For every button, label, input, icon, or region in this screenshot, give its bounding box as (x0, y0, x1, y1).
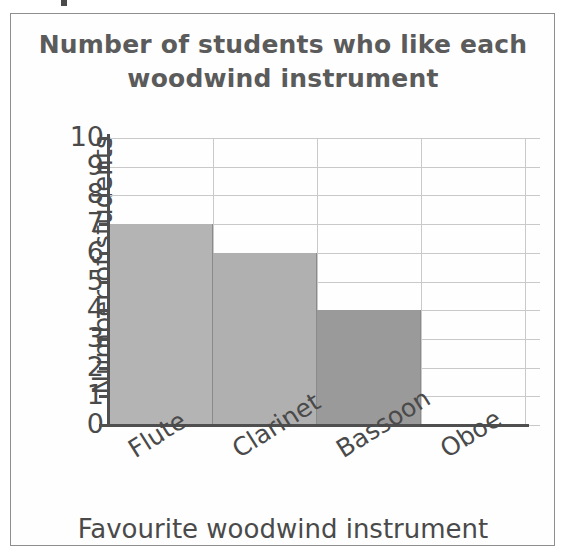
y-tick-label-7: 7 (64, 209, 104, 236)
y-tick-10 (99, 137, 110, 140)
gridline-v-3 (421, 138, 422, 425)
y-tick-2 (99, 367, 110, 370)
y-tick-8 (99, 194, 110, 197)
y-tick-9 (99, 166, 110, 169)
y-tick-label-9: 9 (64, 152, 104, 179)
y-tick-0 (99, 424, 110, 427)
gridline-h-9 (109, 167, 540, 168)
y-tick-label-1: 1 (64, 381, 104, 408)
chart-card: Number of students who like each woodwin… (10, 13, 555, 546)
y-tick-label-3: 3 (64, 324, 104, 351)
y-tick-label-6: 6 (64, 238, 104, 265)
y-tick-4 (99, 309, 110, 312)
y-tick-7 (99, 223, 110, 226)
y-tick-3 (99, 338, 110, 341)
bar-flute (109, 224, 213, 425)
y-tick-label-8: 8 (64, 180, 104, 207)
chart-title: Number of students who like each woodwin… (33, 28, 533, 96)
y-tick-label-4: 4 (64, 295, 104, 322)
y-tick-label-10: 10 (64, 123, 104, 150)
x-axis-title: Favourite woodwind instrument (33, 514, 533, 544)
y-tick-label-5: 5 (64, 267, 104, 294)
y-axis-tick-labels: 109876543210 (64, 14, 104, 559)
y-tick-6 (99, 252, 110, 255)
y-tick-label-2: 2 (64, 353, 104, 380)
gridline-h-10 (109, 138, 540, 139)
y-tick-1 (99, 395, 110, 398)
y-tick-5 (99, 281, 110, 284)
plot-area (109, 138, 540, 425)
gridline-v-4 (525, 138, 526, 425)
gridline-h-8 (109, 195, 540, 196)
y-axis-title-wrapper: Number of students (49, 14, 50, 15)
stray-ink-mark (61, 0, 67, 6)
y-tick-label-0: 0 (64, 410, 104, 437)
